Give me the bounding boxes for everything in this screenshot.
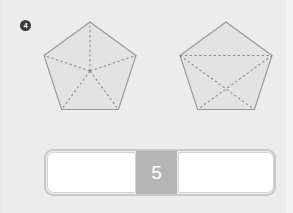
left-answer-input[interactable] (47, 152, 136, 193)
pentagon-five-triangles (38, 14, 142, 120)
pentagon-outline (180, 22, 272, 110)
exercise-page: 4 5 (0, 0, 293, 213)
triangle-count-chip: 5 (136, 151, 177, 194)
answer-row: 5 (44, 149, 276, 196)
figures-area (0, 0, 293, 130)
pentagon-four-triangles (174, 14, 278, 120)
pentagon-center-point (89, 70, 92, 73)
right-answer-input[interactable] (178, 152, 274, 193)
